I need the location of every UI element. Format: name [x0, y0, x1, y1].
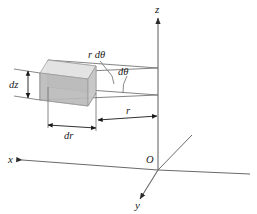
radius-dimension: r — [98, 105, 157, 120]
dr-arrow — [48, 125, 96, 128]
height-dimension: dz — [9, 69, 40, 100]
y-axis-line — [140, 170, 158, 199]
radius-label: r — [126, 105, 131, 116]
origin-label: O — [146, 154, 154, 165]
dz-extension-top — [14, 69, 40, 73]
y-axis-label: y — [134, 199, 140, 211]
angle-label: dθ — [118, 66, 128, 77]
z-axis-label: z — [154, 3, 160, 15]
y-axis-extension — [158, 135, 192, 170]
arc-length-label: r dθ — [88, 49, 105, 60]
volume-element-box — [40, 60, 96, 106]
angle-leader-line — [123, 76, 127, 93]
dz-extension-bottom — [14, 96, 40, 100]
angle-annotation: dθ — [118, 66, 128, 93]
radial-thickness-label: dr — [64, 130, 74, 141]
cylindrical-volume-element-diagram: z x y O — [0, 0, 257, 214]
r-arrow — [98, 116, 157, 120]
x-axis-label: x — [7, 153, 13, 165]
height-label: dz — [9, 79, 18, 90]
figure-container: z x y O — [0, 0, 257, 214]
x-axis-line — [22, 160, 158, 170]
x-axis-extension — [158, 170, 250, 174]
